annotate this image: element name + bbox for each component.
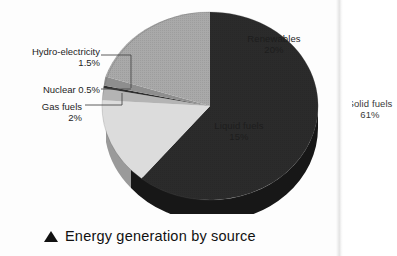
leader-line-hydro-electricity xyxy=(101,55,131,88)
callout-hydro-electricity: Hydro-electricity 1.5% xyxy=(4,46,100,69)
scan-seam-artifact xyxy=(336,0,342,256)
figure-caption: Energy generation by source xyxy=(44,228,256,244)
callout-nuclear: Nuclear 0.5% xyxy=(4,84,100,95)
page-edge-margin xyxy=(343,0,352,256)
callout-hydro-electricity-name: Hydro-electricity xyxy=(32,46,100,57)
triangle-up-icon xyxy=(44,231,58,242)
callout-gas-fuels-value: 2% xyxy=(4,112,82,123)
figure-caption-text: Energy generation by source xyxy=(65,228,256,244)
callout-nuclear-name: Nuclear 0.5% xyxy=(43,84,100,95)
slice-label-solid-fuels-name: Solid fuels xyxy=(348,98,393,109)
callout-hydro-electricity-value: 1.5% xyxy=(4,57,100,68)
callout-gas-fuels-name: Gas fuels xyxy=(42,101,82,112)
callout-gas-fuels: Gas fuels 2% xyxy=(4,101,82,124)
